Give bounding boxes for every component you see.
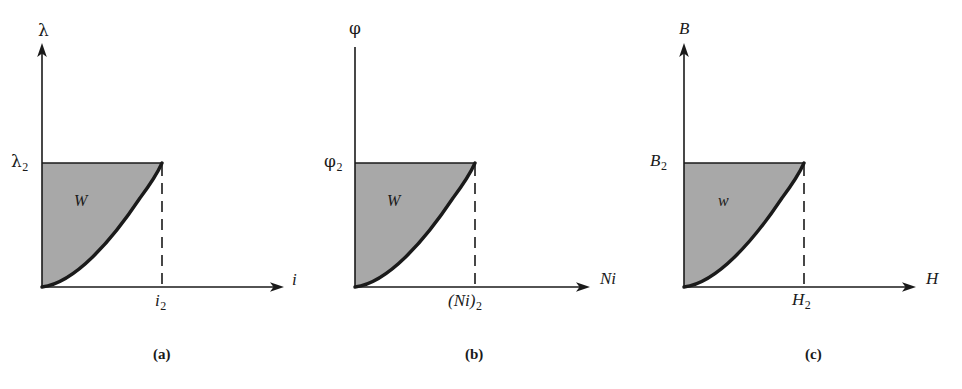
y-tick-label-a: λ2 [11,153,28,170]
panel-b-graphic [320,0,640,340]
energy-region-label-b: W [387,193,400,209]
panel-c: B H B2 H2 w (c) [642,0,962,389]
x-axis-label-a: i [292,271,297,288]
shaded-energy-region-c [684,163,804,287]
panel-caption-c: (c) [805,346,822,363]
panel-caption-a: (a) [153,346,171,363]
shaded-energy-region-b [355,163,475,287]
y-tick-label-a-symbol: λ [11,151,22,171]
x-tick-label-b: (Ni)2 [448,292,481,309]
panel-a: λ i λ2 i2 W (a) [0,0,320,389]
panel-b: φ Ni φ2 (Ni)2 W (b) [320,0,640,389]
energy-region-label-c: w [718,193,729,209]
energy-region-label-a: W [74,193,87,209]
y-axis-label-c: B [679,20,689,37]
panel-c-graphic [642,0,962,340]
y-tick-label-c-subscript: 2 [661,159,667,173]
panel-a-graphic [0,0,320,340]
x-tick-label-b-symbol: (Ni) [448,291,475,310]
y-axis-label-a: λ [38,22,49,39]
y-tick-label-b-subscript: 2 [336,160,342,174]
panel-caption-b: (b) [465,346,483,363]
figure-container: λ i λ2 i2 W (a) φ Ni φ2 (Ni)2 W (b) [0,0,962,389]
shaded-energy-region-a-fix [42,163,162,287]
x-tick-label-b-subscript: 2 [476,299,482,313]
x-tick-label-c: H2 [792,291,810,308]
x-tick-label-a: i2 [155,292,166,309]
y-tick-label-c: B2 [650,152,666,169]
x-tick-label-c-symbol: H [792,290,804,309]
y-tick-label-c-symbol: B [650,151,660,170]
x-tick-label-c-subscript: 2 [805,298,811,312]
y-tick-label-a-subscript: 2 [22,160,28,174]
y-tick-label-b: φ2 [324,153,342,170]
y-axis-label-b: φ [349,20,361,37]
x-axis-label-c: H [926,270,938,287]
x-axis-label-b: Ni [600,270,616,287]
x-tick-label-a-subscript: 2 [160,299,166,313]
y-tick-label-b-symbol: φ [324,151,336,171]
